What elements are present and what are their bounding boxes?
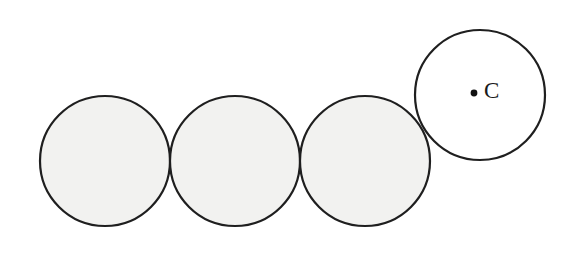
point-label-c: C <box>484 78 499 103</box>
open-circle-labeled-c <box>415 30 545 160</box>
figure-canvas: C <box>0 0 573 254</box>
center-point-dot <box>471 90 478 97</box>
shaded-circle-middle-right <box>300 96 430 226</box>
circles-diagram: C <box>0 0 573 254</box>
shaded-circle-left <box>40 96 170 226</box>
shaded-circle-middle-left <box>170 96 300 226</box>
